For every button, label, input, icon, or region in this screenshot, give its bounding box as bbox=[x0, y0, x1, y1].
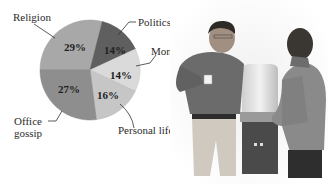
pct-politics: 14% bbox=[104, 44, 126, 56]
label-personal-life: Personal life bbox=[118, 124, 173, 136]
label-office-gossip-line2: gossip bbox=[14, 127, 42, 139]
photo-illustration bbox=[170, 0, 328, 184]
label-religion: Religion bbox=[13, 11, 51, 23]
pct-personal-life: 16% bbox=[97, 89, 119, 101]
photo-water-cooler bbox=[170, 0, 328, 184]
leader-office-gossip bbox=[48, 111, 62, 121]
pie-chart: Religion Politics Money Personal life Of… bbox=[0, 0, 170, 184]
pct-office-gossip: 27% bbox=[58, 83, 80, 95]
leader-religion bbox=[34, 24, 55, 38]
pct-religion: 29% bbox=[64, 41, 86, 53]
pct-money: 14% bbox=[110, 69, 132, 81]
label-office-gossip-line1: Office bbox=[14, 115, 42, 127]
label-politics: Politics bbox=[138, 16, 171, 28]
